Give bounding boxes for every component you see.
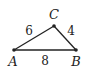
side-ac — [14, 26, 54, 50]
side-ac-length: 6 — [25, 24, 33, 38]
triangle-diagram: A B C 6 4 8 — [0, 0, 93, 71]
vertex-c-label: C — [49, 7, 59, 22]
side-ab-length: 8 — [41, 54, 49, 68]
vertex-a-point — [12, 48, 16, 52]
vertex-b-point — [74, 48, 78, 52]
vertex-c-point — [52, 24, 56, 28]
side-cb-length: 4 — [67, 24, 75, 38]
vertex-a-label: A — [7, 54, 17, 69]
vertex-b-label: B — [70, 54, 81, 69]
